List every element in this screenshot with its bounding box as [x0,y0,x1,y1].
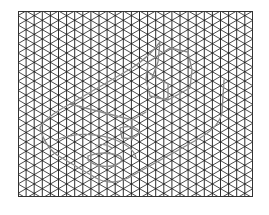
grid-line-diagonal-down [18,25,253,161]
isometric-grid [18,0,253,215]
sheet-border [19,12,253,197]
grid-line-diagonal-up [18,2,253,138]
grid-line-diagonal-up [18,20,253,156]
grid-line-diagonal-down [18,0,253,58]
grid-line-diagonal-down [18,16,253,152]
grid-line-diagonal-down [18,0,253,11]
isometric-sheet [0,0,269,215]
grid-line-diagonal-up [18,189,253,215]
grid-line-diagonal-down [18,44,253,180]
grid-line-diagonal-down [18,62,253,198]
grid-line-diagonal-up [18,11,253,147]
grid-line-diagonal-down [18,0,253,2]
grid-line-diagonal-down [18,0,253,67]
grid-line-diagonal-down [18,53,253,189]
grid-line-diagonal-up [18,48,253,184]
grid-line-diagonal-down [18,34,253,170]
grid-line-diagonal-up [18,179,253,215]
grid-line-diagonal-up [18,67,253,203]
grid-line-diagonal-up [18,58,253,194]
grid-line-diagonal-down [18,0,253,39]
grid-line-diagonal-down [18,184,253,215]
grid-line-diagonal-up [18,76,253,212]
grid-line-diagonal-up [18,0,253,6]
grid-line-diagonal-down [18,203,253,215]
grid-line-diagonal-down [18,72,253,208]
grid-line-diagonal-up [18,151,253,215]
grid-line-diagonal-up [18,198,253,215]
grid-line-diagonal-up [18,114,253,215]
grid-line-diagonal-up [18,30,253,166]
grid-line-diagonal-down [18,0,253,30]
grid-line-diagonal-down [18,212,253,215]
